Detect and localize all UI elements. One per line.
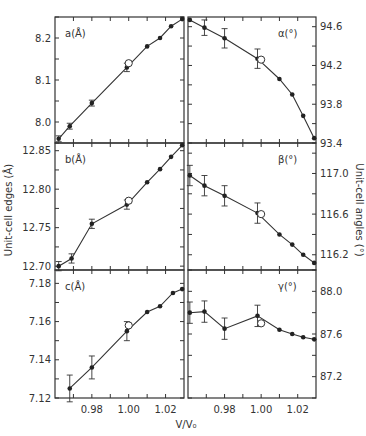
data-point xyxy=(290,92,295,97)
panel-bottom-right: 87.287.688.0γ(°)0.981.001.02 xyxy=(187,270,342,415)
data-point xyxy=(180,17,185,22)
panel-label: c(Å) xyxy=(65,280,85,292)
x-tick-label: 1.02 xyxy=(154,404,176,415)
right-y-axis-title: Unit-cell angles (°) xyxy=(354,163,365,256)
data-point xyxy=(202,183,207,188)
y-tick-label: 94.6 xyxy=(320,21,342,32)
data-point xyxy=(158,36,163,41)
data-point xyxy=(145,44,150,49)
reference-point xyxy=(258,320,265,327)
y-tick-label: 93.4 xyxy=(320,138,342,149)
reference-point xyxy=(125,197,132,204)
x-tick-label: 1.00 xyxy=(118,404,140,415)
y-tick-label: 93.8 xyxy=(320,99,342,110)
data-point xyxy=(290,242,295,247)
y-tick-label: 87.6 xyxy=(320,329,342,340)
data-point xyxy=(312,136,317,141)
data-point xyxy=(171,291,176,296)
panel-top-right: 93.493.894.294.6α(°) xyxy=(188,17,343,149)
data-point xyxy=(158,167,163,172)
data-point xyxy=(312,337,317,342)
data-point xyxy=(301,252,306,257)
data-point xyxy=(125,329,130,334)
data-point xyxy=(158,304,163,309)
data-point xyxy=(277,77,282,82)
y-tick-label: 7.14 xyxy=(29,354,51,365)
data-point xyxy=(222,36,227,41)
y-tick-label: 87.2 xyxy=(320,371,342,382)
panel-middle-left: 12.7012.7512.8012.85b(Å) xyxy=(22,143,184,272)
data-point xyxy=(188,173,193,178)
data-point xyxy=(169,155,174,160)
y-tick-label: 116.2 xyxy=(320,249,349,260)
data-point xyxy=(56,264,61,269)
data-point xyxy=(145,180,150,185)
panel-label: b(Å) xyxy=(65,153,86,165)
y-tick-label: 8.1 xyxy=(35,75,51,86)
data-point xyxy=(90,222,95,227)
data-point xyxy=(180,287,185,292)
data-point xyxy=(290,332,295,337)
data-point xyxy=(301,114,306,119)
data-point xyxy=(169,24,174,29)
data-point xyxy=(301,335,306,340)
fit-line xyxy=(70,289,183,388)
panel-middle-right: 116.2116.6117.0β(°) xyxy=(187,143,349,270)
data-point xyxy=(188,310,193,315)
figure-canvas: 8.08.18.2a(Å)93.493.894.294.6α(°)12.7012… xyxy=(0,0,366,436)
reference-point xyxy=(125,322,132,329)
data-point xyxy=(202,25,207,30)
x-tick-label: 0.98 xyxy=(213,404,235,415)
x-tick-label: 0.98 xyxy=(81,404,103,415)
fit-line xyxy=(190,176,314,263)
data-point xyxy=(145,310,150,315)
y-tick-label: 8.0 xyxy=(35,117,51,128)
data-point xyxy=(56,137,61,142)
data-point xyxy=(222,194,227,199)
panel-label: a(Å) xyxy=(65,27,86,39)
y-tick-label: 117.0 xyxy=(320,168,349,179)
data-point xyxy=(69,256,74,261)
data-point xyxy=(222,326,227,331)
y-tick-label: 12.85 xyxy=(22,145,51,156)
data-point xyxy=(188,18,193,23)
y-tick-label: 7.18 xyxy=(29,278,51,289)
y-tick-label: 88.0 xyxy=(320,286,342,297)
data-point xyxy=(277,232,282,237)
reference-point xyxy=(125,60,132,67)
y-tick-label: 94.2 xyxy=(320,60,342,71)
fit-line xyxy=(190,312,314,340)
y-tick-label: 12.75 xyxy=(22,222,51,233)
x-axis-title: V/V₀ xyxy=(175,419,196,430)
y-tick-label: 8.2 xyxy=(35,33,51,44)
data-point xyxy=(202,309,207,314)
x-tick-label: 1.00 xyxy=(250,404,272,415)
panel-top-left: 8.08.18.2a(Å) xyxy=(35,17,184,143)
y-tick-label: 12.80 xyxy=(22,184,51,195)
data-point xyxy=(277,327,282,332)
panel-label: α(°) xyxy=(278,28,297,39)
panel-frame xyxy=(188,270,316,398)
data-point xyxy=(67,124,72,129)
data-point xyxy=(180,143,185,148)
reference-point xyxy=(258,56,265,63)
panel-label: β(°) xyxy=(278,154,297,165)
panel-label: γ(°) xyxy=(278,281,297,292)
data-point xyxy=(255,314,260,319)
y-tick-label: 7.12 xyxy=(29,393,51,404)
data-point xyxy=(312,261,317,266)
y-tick-label: 12.70 xyxy=(22,261,51,272)
panel-bottom-left: 7.127.147.167.18c(Å)0.981.001.02 xyxy=(29,270,185,415)
data-point xyxy=(90,101,95,106)
left-y-axis-title: Unit-cell edges (Å) xyxy=(2,164,14,256)
y-tick-label: 7.16 xyxy=(29,316,51,327)
y-tick-label: 116.6 xyxy=(320,209,349,220)
reference-point xyxy=(258,211,265,218)
data-point xyxy=(67,386,72,391)
data-point xyxy=(90,365,95,370)
x-tick-label: 1.02 xyxy=(287,404,309,415)
